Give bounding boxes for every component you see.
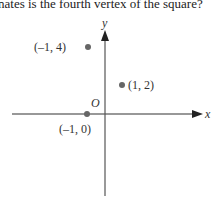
- point-1-2: [119, 82, 125, 88]
- origin-label: O: [91, 96, 100, 110]
- y-axis-arrow-icon: [101, 30, 109, 41]
- point-neg1-0: [84, 111, 90, 117]
- coordinate-plane: x y O (–1, 4) (1, 2) (–1, 0): [0, 0, 217, 199]
- point-neg1-4: [85, 44, 91, 50]
- point-label-neg1-0: (–1, 0): [59, 122, 91, 136]
- x-axis-arrow-icon: [192, 110, 203, 118]
- x-axis-label: x: [204, 107, 211, 121]
- point-label-1-2: (1, 2): [128, 78, 154, 92]
- point-label-neg1-4: (–1, 4): [34, 40, 66, 54]
- y-axis-label: y: [101, 16, 108, 30]
